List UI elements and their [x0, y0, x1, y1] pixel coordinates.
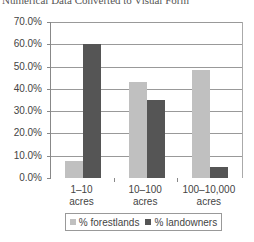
x-tick-label: 1–10acres [50, 184, 113, 208]
x-tick-mark [177, 178, 178, 182]
y-tick-mark [47, 44, 51, 45]
bar-landowners [147, 100, 165, 178]
y-tick-mark [47, 111, 51, 112]
y-tick-label: 30.0% [2, 105, 42, 116]
gridline [51, 67, 242, 68]
legend-swatch-forestlands [70, 219, 76, 225]
bar-landowners [210, 167, 228, 178]
x-tick-label: 10–100acres [114, 184, 177, 208]
legend-item-landowners: % landowners [145, 217, 217, 228]
bar-forestlands [192, 70, 210, 178]
plot-area [50, 22, 243, 178]
y-tick-mark [47, 178, 51, 179]
y-tick-label: 20.0% [2, 127, 42, 138]
y-tick-mark [47, 67, 51, 68]
y-tick-mark [47, 156, 51, 157]
legend-item-forestlands: % forestlands [70, 217, 140, 228]
y-tick-label: 10.0% [2, 150, 42, 161]
y-tick-mark [47, 133, 51, 134]
legend-swatch-landowners [145, 219, 151, 225]
y-tick-label: 50.0% [2, 61, 42, 72]
y-tick-mark [47, 89, 51, 90]
y-tick-label: 40.0% [2, 83, 42, 94]
y-tick-label: 70.0% [2, 16, 42, 27]
gridline [51, 44, 242, 45]
y-tick-label: 60.0% [2, 38, 42, 49]
bar-forestlands [65, 161, 83, 178]
chart-title: Numerical Data Converted to Visual Form [2, 0, 189, 6]
x-tick-mark [114, 178, 115, 182]
bar-landowners [83, 44, 101, 178]
legend-label-forestlands: % forestlands [79, 217, 140, 228]
gridline [51, 22, 242, 23]
legend-label-landowners: % landowners [154, 217, 217, 228]
y-tick-mark [47, 22, 51, 23]
bar-forestlands [129, 82, 147, 178]
legend: % forestlands % landowners [65, 213, 222, 231]
y-tick-label: 0.0% [2, 172, 42, 183]
x-tick-label: 100–10,000acres [177, 184, 240, 208]
